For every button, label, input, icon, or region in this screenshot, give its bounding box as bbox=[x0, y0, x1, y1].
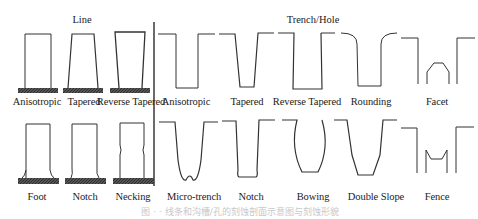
etch-profile-diagram bbox=[0, 0, 478, 219]
profile-line-tapered bbox=[68, 34, 98, 88]
label-line-anisotropic: Anisotropic bbox=[13, 96, 61, 107]
profile-trench-facet bbox=[401, 38, 475, 84]
profile-line-anisotropic bbox=[25, 34, 51, 88]
line-profiles bbox=[18, 32, 154, 184]
label-trench-tapered: Tapered bbox=[231, 96, 264, 107]
label-line-foot: Foot bbox=[28, 191, 47, 202]
label-trench-notch: Notch bbox=[238, 191, 263, 202]
profile-line-reverse-tapered bbox=[115, 32, 145, 88]
profile-trench-fence bbox=[401, 127, 474, 173]
label-trench-reverse-tapered: Reverse Tapered bbox=[273, 96, 341, 107]
profile-trench-bowing bbox=[282, 120, 325, 172]
substrate bbox=[63, 88, 103, 93]
label-line-tapered: Tapered bbox=[68, 96, 101, 107]
profile-trench-reverse-tapered bbox=[278, 33, 322, 89]
profile-line-necking bbox=[120, 123, 144, 178]
profile-trench-tapered bbox=[219, 33, 274, 87]
label-trench-facet: Facet bbox=[426, 96, 448, 107]
label-trench-anisotropic: Anisotropic bbox=[162, 96, 210, 107]
header-trench-hole: Trench/Hole bbox=[287, 14, 340, 25]
label-trench-rounding: Rounding bbox=[351, 96, 392, 107]
label-line-necking: Necking bbox=[116, 191, 151, 202]
substrate bbox=[110, 88, 150, 93]
figure-caption: 图 · · 线条和沟槽/孔的刻蚀剖面示意图与刻蚀形貌 bbox=[141, 205, 338, 218]
label-trench-double-slope: Double Slope bbox=[348, 191, 404, 202]
profile-line-foot bbox=[22, 124, 54, 178]
label-line-reverse-tapered: Reverse Tapered bbox=[97, 96, 165, 107]
profile-trench-anisotropic bbox=[158, 34, 215, 88]
header-line: Line bbox=[72, 14, 91, 25]
label-trench-bowing: Bowing bbox=[297, 191, 330, 202]
profile-line-notch bbox=[71, 124, 99, 178]
profile-trench-rounding bbox=[321, 33, 397, 86]
profile-trench-double-slope bbox=[334, 120, 397, 175]
label-line-notch: Notch bbox=[72, 191, 97, 202]
label-trench-fence: Fence bbox=[425, 191, 450, 202]
profile-trench-notch bbox=[222, 120, 275, 177]
label-trench-micro-trench: Micro-trench bbox=[167, 191, 221, 202]
profile-trench-micro-trench bbox=[159, 122, 218, 180]
substrate bbox=[18, 88, 58, 93]
